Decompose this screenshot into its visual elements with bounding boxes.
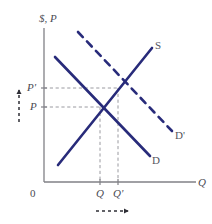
curves — [55, 32, 172, 165]
price-initial-label: P — [30, 101, 37, 112]
axis-lines — [44, 28, 196, 182]
origin-label: 0 — [30, 188, 36, 199]
quantity-initial-label: Q — [96, 188, 104, 199]
supply-demand-figure: $, P Q 0 P' P Q Q' S D D' — [0, 0, 212, 224]
demand-curve-label: D — [152, 155, 160, 166]
demand-shifted-curve-label: D' — [175, 130, 185, 141]
quantity-shifted-label: Q' — [113, 188, 123, 199]
x-axis-label: Q — [198, 177, 206, 188]
supply-curve — [58, 48, 152, 165]
price-shifted-label: P' — [27, 82, 36, 93]
y-axis-label: $, P — [39, 13, 57, 24]
supply-curve-label: S — [155, 40, 161, 51]
